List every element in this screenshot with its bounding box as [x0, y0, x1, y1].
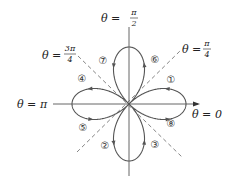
dashed-line-3pi-4 — [78, 56, 182, 157]
label-theta-pi: θ = π — [17, 98, 48, 111]
svg-text:θ =: θ = — [17, 98, 36, 111]
svg-text:0: 0 — [215, 108, 222, 121]
x-axis-arrow-icon — [193, 102, 200, 107]
svg-text:θ =: θ = — [101, 12, 120, 25]
segment-label-5: ⑤ — [79, 122, 88, 133]
label-theta-pi-2: θ = π 2 — [101, 8, 138, 28]
segment-label-7: ⑦ — [99, 55, 108, 66]
segment-label-8: ⑧ — [167, 118, 176, 129]
curve-direction-arrow-icon — [111, 63, 115, 68]
segment-label-4: ④ — [78, 73, 87, 84]
svg-text:θ =: θ = — [42, 49, 61, 62]
curve-direction-arrow-icon — [142, 139, 146, 144]
curve-direction-arrow-icon — [142, 62, 147, 67]
svg-text:4: 4 — [66, 55, 72, 64]
svg-text:2: 2 — [130, 19, 136, 28]
curve-direction-arrow-icon — [87, 86, 92, 91]
segment-label-2: ② — [101, 140, 110, 151]
segment-label-6: ⑥ — [151, 54, 160, 65]
label-theta-0: θ = 0 — [192, 108, 222, 121]
curve-direction-arrow-icon — [111, 140, 116, 145]
svg-text:π: π — [203, 39, 210, 48]
rose-diagram: θ = π 2 θ = π 4 θ = 3π 4 θ = π θ = 0 ① ②… — [0, 0, 230, 184]
segment-label-1: ① — [167, 74, 176, 85]
svg-text:4: 4 — [203, 50, 209, 59]
svg-text:θ =: θ = — [192, 108, 211, 121]
label-theta-3pi-4: θ = 3π 4 — [42, 44, 76, 64]
svg-text:π: π — [39, 98, 48, 111]
svg-text:3π: 3π — [65, 44, 76, 53]
label-theta-pi-4: θ = π 4 — [182, 39, 211, 59]
segment-label-3: ③ — [151, 139, 160, 150]
curve-direction-arrow-icon — [164, 86, 169, 90]
svg-text:π: π — [130, 8, 137, 17]
curve-direction-arrow-icon — [88, 117, 93, 121]
svg-text:θ =: θ = — [182, 43, 201, 56]
